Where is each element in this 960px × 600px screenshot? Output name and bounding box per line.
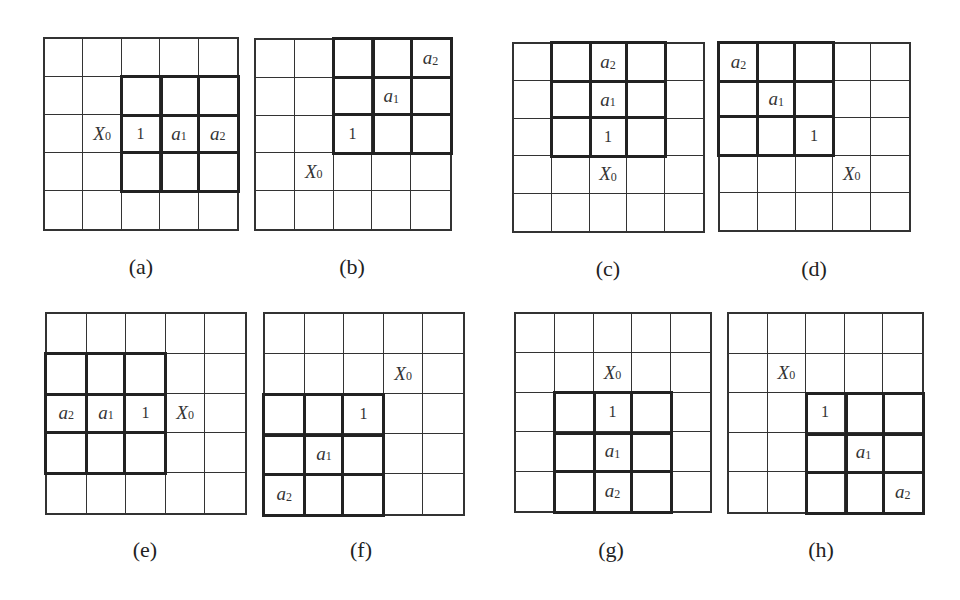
label-base: 1: [348, 125, 356, 143]
label-base: a: [316, 443, 326, 465]
grid-cell: [720, 81, 758, 118]
grid-e: a2a11X0: [45, 312, 247, 515]
label-subscript: 0: [406, 369, 412, 384]
cell-label-1: 1: [344, 394, 384, 434]
grid-cell: [372, 191, 411, 229]
grid-b: a2a11X0: [254, 38, 452, 231]
label-subscript: 0: [188, 408, 194, 423]
grid-cell: [514, 81, 552, 118]
cell-label-x0: X0: [83, 115, 121, 153]
grid-cell: [871, 193, 909, 230]
cell-label-a2: a2: [590, 44, 628, 81]
panel-caption: (a): [111, 254, 171, 280]
grid-cell: [514, 156, 552, 193]
grid-cell: [555, 314, 594, 353]
grid-cell: [160, 39, 198, 77]
grid-cell: [265, 354, 305, 394]
label-base: 1: [141, 404, 149, 422]
grid-cell: [632, 432, 671, 471]
grid-cell: [344, 434, 384, 474]
label-subscript: 0: [855, 169, 861, 184]
label-base: a: [895, 481, 905, 503]
cell-label-a2: a2: [883, 472, 922, 512]
grid-cell: [768, 314, 807, 354]
grid-cell: [671, 472, 710, 511]
panel-caption: (f): [331, 537, 391, 563]
cell-label-a1: a1: [758, 81, 796, 118]
grid-cell: [845, 354, 884, 394]
grid-cell: [627, 81, 665, 118]
label-base: X: [599, 163, 611, 185]
label-base: a: [171, 123, 181, 145]
grid-cell: [305, 354, 345, 394]
cell-label-x0: X0: [594, 353, 633, 392]
grid-cell: [720, 193, 758, 230]
grid-cell: [665, 44, 703, 81]
grid-cell: [590, 194, 628, 231]
grid-cell: [166, 433, 206, 473]
grid-cell: [166, 354, 206, 394]
grid-cell: [205, 394, 245, 434]
label-base: a: [731, 51, 741, 73]
grid-cell: [883, 314, 922, 354]
label-base: a: [59, 402, 69, 424]
label-subscript: 2: [432, 54, 438, 69]
label-base: a: [210, 123, 220, 145]
grid-cell: [256, 78, 295, 116]
grid-cell: [411, 153, 450, 191]
grid-cell: [256, 153, 295, 191]
grid-cell: [720, 118, 758, 155]
grid-cell: [166, 314, 206, 354]
grid-cell: [122, 191, 160, 229]
grid-cell: [871, 118, 909, 155]
grid-cell: [871, 44, 909, 81]
cell-label-x0: X0: [384, 354, 424, 394]
label-subscript: 2: [220, 129, 226, 144]
grid-cell: [552, 119, 590, 156]
grid-cell: [632, 393, 671, 432]
grid-cell: [555, 472, 594, 511]
grid-cell: [423, 354, 463, 394]
grid-cell: [372, 40, 411, 78]
grid-cell: [372, 153, 411, 191]
label-base: a: [384, 85, 394, 107]
label-subscript: 2: [614, 487, 620, 502]
grid-cell: [205, 314, 245, 354]
cell-label-1: 1: [796, 118, 834, 155]
label-subscript: 1: [181, 129, 187, 144]
grid-cell: [295, 191, 334, 229]
grid-cell: [729, 472, 768, 512]
grid-cell: [729, 433, 768, 473]
label-subscript: 2: [68, 408, 74, 423]
grid-cell: [632, 472, 671, 511]
grid-cell: [423, 474, 463, 514]
cell-label-a1: a1: [594, 432, 633, 471]
grid-cell: [871, 81, 909, 118]
grid-cell: [768, 393, 807, 433]
cell-label-x0: X0: [768, 354, 807, 394]
grid-cell: [627, 194, 665, 231]
label-base: 1: [136, 125, 144, 143]
grid-cell: [627, 119, 665, 156]
grid-h: X01a1a2: [727, 312, 924, 514]
cell-label-x0: X0: [833, 156, 871, 193]
grid-cell: [87, 433, 127, 473]
grid-cell: [665, 119, 703, 156]
grid-cell: [47, 473, 87, 513]
label-subscript: 1: [393, 92, 399, 107]
label-base: a: [768, 88, 778, 110]
panel-caption: (d): [784, 256, 844, 282]
grid-cell: [796, 81, 834, 118]
label-base: 1: [604, 128, 612, 146]
label-subscript: 2: [610, 58, 616, 73]
label-base: a: [423, 47, 433, 69]
grid-cell: [47, 314, 87, 354]
grid-cell: [671, 353, 710, 392]
cell-label-a1: a1: [160, 115, 198, 153]
grid-cell: [632, 353, 671, 392]
grid-cell: [833, 193, 871, 230]
grid-a: X01a1a2: [43, 37, 239, 231]
grid-cell: [758, 156, 796, 193]
label-base: X: [778, 362, 790, 384]
grid-cell: [833, 118, 871, 155]
